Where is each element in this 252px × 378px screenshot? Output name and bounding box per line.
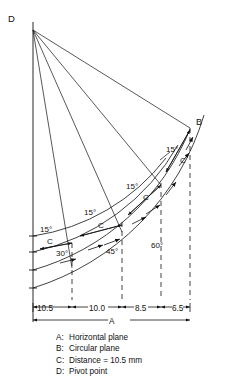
label-angle-increment-2: 15° [84, 208, 96, 217]
legend: A: Horizontal plane B: Circular plane C:… [56, 332, 142, 377]
dimension-label-a: A [109, 317, 115, 326]
technical-diagram: D B 15° C 15° C 15° C 15° C 30° 45° 60° … [0, 0, 252, 378]
legend-value-b: Circular plane [69, 343, 120, 354]
legend-item-b: B: Circular plane [56, 343, 142, 354]
dimension-value-1: 10.5 [37, 304, 53, 313]
legend-value-d: Pivot point [69, 366, 107, 377]
arc-arrowheads [60, 137, 193, 263]
dimension-value-3: 8.5 [135, 304, 147, 313]
dimension-value-2: 10.0 [89, 304, 105, 313]
label-point-d: D [8, 13, 15, 24]
label-c-upper: C [180, 156, 186, 165]
legend-key-a: A: [56, 332, 69, 343]
dimension-value-4: 6.5 [172, 304, 184, 313]
label-angle-increment-3: 15° [126, 182, 138, 191]
label-angle-increment-1: 15° [40, 225, 52, 234]
circular-arcs [33, 115, 204, 288]
legend-item-a: A: Horizontal plane [56, 332, 142, 343]
label-arc-angle-30: 30° [56, 249, 68, 258]
legend-value-a: Horizontal plane [69, 332, 128, 343]
label-c-first: C [47, 237, 53, 246]
legend-item-d: D: Pivot point [56, 366, 142, 377]
label-c-mid: C [143, 193, 149, 202]
label-arc-angle-60: 60° [151, 241, 163, 250]
legend-key-b: B: [56, 343, 69, 354]
arc-bottom [33, 115, 204, 288]
legend-key-c: C: [56, 355, 69, 366]
figure-canvas: D B 15° C 15° C 15° C 15° C 30° 45° 60° … [0, 0, 252, 378]
label-point-b: B [196, 117, 202, 127]
label-angle-increment-4: 15° [166, 145, 178, 154]
legend-key-d: D: [56, 366, 69, 377]
dimension-row [33, 303, 190, 312]
label-c-lower: C [98, 221, 104, 230]
label-arc-angle-45: 45° [106, 247, 118, 256]
legend-value-c: Distance = 10.5 mm [69, 355, 142, 366]
legend-item-c: C: Distance = 10.5 mm [56, 355, 142, 366]
